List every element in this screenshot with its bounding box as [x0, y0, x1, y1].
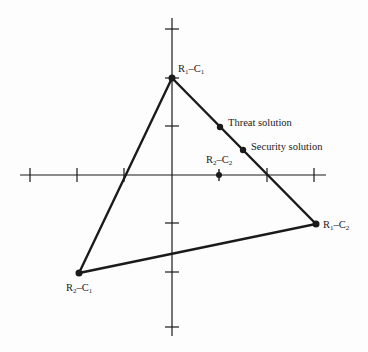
point-threat-solution [217, 124, 223, 130]
label-r2-c2: R2–C2 [206, 154, 233, 167]
payoff-chart: R1–C1 Threat solution Security solution … [0, 0, 368, 352]
label-security-solution: Security solution [251, 141, 323, 152]
label-r1-c2: R1–C2 [323, 219, 350, 232]
point-r2-c2 [216, 169, 222, 181]
label-threat-solution: Threat solution [228, 117, 293, 128]
label-r1-c1: R1–C1 [178, 63, 205, 76]
label-r2-c1: R2–C1 [66, 282, 93, 295]
point-r2-c1 [76, 270, 83, 277]
point-security-solution [240, 147, 246, 153]
point-r1-c1 [169, 75, 176, 82]
point-r1-c2 [313, 221, 320, 228]
